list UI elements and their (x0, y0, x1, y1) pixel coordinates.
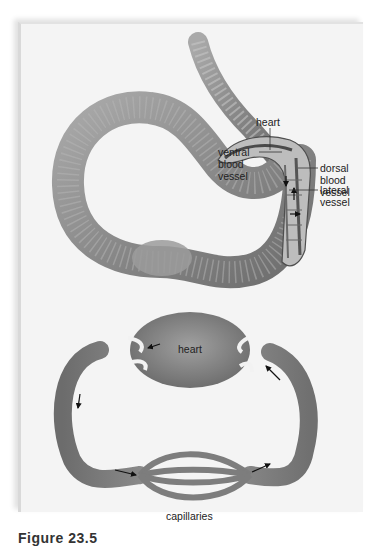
label-heart-bottom: heart (178, 343, 202, 355)
label-capillaries: capillaries (166, 510, 213, 522)
earthworm-illustration (68, 42, 318, 276)
label-ventral-blood-vessel: ventral blood vessel (218, 146, 250, 182)
label-lateral-vessel: lateral vessel (320, 184, 350, 208)
circulation-loop-illustration (63, 312, 309, 498)
circulatory-diagram-illustration (0, 0, 379, 546)
label-heart-top: heart (256, 116, 280, 128)
figure-caption: Figure 23.5 (18, 530, 97, 546)
